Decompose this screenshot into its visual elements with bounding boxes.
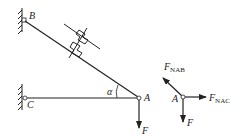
label-fnab: FNAB — [163, 61, 185, 74]
wall-support-b — [18, 8, 22, 34]
fbd-label-f: F — [186, 117, 194, 128]
label-a: A — [143, 92, 151, 103]
truss-diagram: B C α A F A FNAB FNAC F — [0, 0, 248, 136]
label-alpha: α — [107, 86, 113, 97]
joint-a — [137, 96, 141, 100]
angle-arc — [116, 85, 118, 98]
wall-support-c — [18, 84, 22, 110]
label-b: B — [29, 10, 35, 21]
fbd-point-a — [181, 95, 185, 99]
connector-symbol — [64, 24, 100, 58]
label-c: C — [27, 99, 34, 110]
label-fnac: FNAC — [208, 92, 230, 105]
label-f: F — [141, 125, 149, 136]
fbd-label-a: A — [171, 93, 179, 104]
label-fnab-sub: NAB — [170, 66, 185, 74]
free-body-diagram: A FNAB FNAC F — [163, 61, 230, 128]
label-fnac-sub: NAC — [215, 97, 230, 105]
bar-ab — [25, 21, 138, 97]
